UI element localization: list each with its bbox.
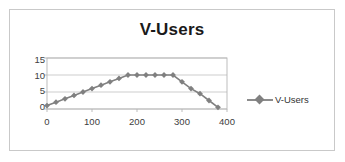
legend-marker-icon [247, 95, 273, 105]
chart-frame[interactable]: V-Users 15 10 5 0 0 100 200 300 400 V-Us… [9, 9, 335, 151]
x-tick-label-300: 300 [164, 116, 200, 127]
plot-area: 15 10 5 0 0 100 200 300 400 [10, 10, 336, 152]
x-tick-label-100: 100 [74, 116, 110, 127]
legend-label: V-Users [273, 94, 309, 105]
x-tick-label-0: 0 [29, 116, 65, 127]
y-tick-label-15: 15 [23, 54, 45, 65]
y-tick-label-10: 10 [23, 70, 45, 81]
chart-legend[interactable]: V-Users [247, 94, 309, 105]
y-tick-label-5: 5 [23, 85, 45, 96]
x-tick-label-400: 400 [209, 116, 245, 127]
plot-canvas [10, 10, 336, 152]
x-tick-label-200: 200 [119, 116, 155, 127]
y-tick-label-0: 0 [23, 101, 45, 112]
